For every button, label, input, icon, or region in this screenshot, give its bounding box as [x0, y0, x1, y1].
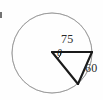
geometry-figure: 75 60 θ	[0, 0, 103, 100]
figure-background	[0, 0, 103, 100]
edge-artifact-mark	[0, 12, 2, 18]
label-side-60: 60	[85, 62, 97, 74]
label-side-75: 75	[61, 33, 73, 45]
figure-canvas	[0, 0, 103, 100]
label-angle-theta: θ	[57, 48, 62, 58]
